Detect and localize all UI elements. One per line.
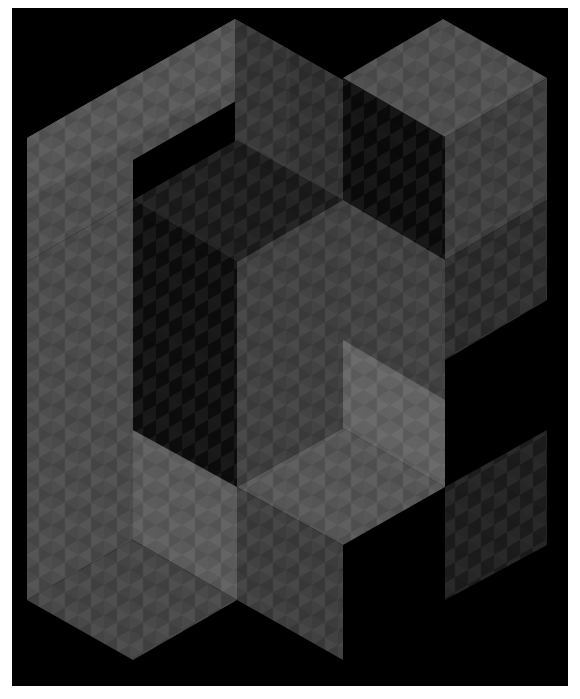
faces-group (27, 19, 547, 660)
op-art-canvas (0, 0, 580, 699)
left-block-front-checker-shade (27, 200, 133, 600)
